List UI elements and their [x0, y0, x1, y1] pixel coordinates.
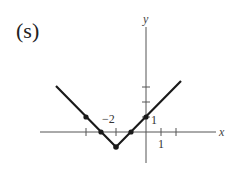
x-tick-label-1: 1 — [158, 137, 164, 151]
y-axis-label: y — [142, 12, 149, 26]
x-axis-label: x — [218, 125, 225, 139]
y-tick-label-1: 1 — [151, 113, 157, 127]
chart-plot: −2 1 1 x y — [0, 0, 240, 183]
x-tick-label-neg2: −2 — [102, 112, 115, 126]
